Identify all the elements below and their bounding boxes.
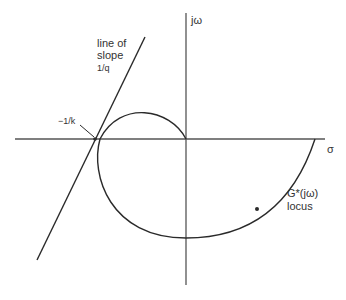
locus-label-line1: G*(jω) [287,187,318,199]
intersection-leader-line [80,125,94,137]
locus-direction-arrow-icon [255,207,259,211]
popov-diagram: jω σ line of slope 1/q −1/k G*(jω) locus [0,0,346,300]
imag-axis-label: jω [191,14,202,26]
nyquist-locus [98,113,315,238]
slope-label-value: 1/q [97,62,110,74]
slope-label-line2: slope [97,49,123,61]
locus-label-line2: locus [287,200,313,212]
diagram-canvas [0,0,346,300]
slope-line [37,37,145,260]
real-axis-label: σ [327,143,334,155]
slope-label-line1: line of [97,37,126,49]
intersection-point [93,137,97,141]
intersection-label: −1/k [58,115,75,127]
